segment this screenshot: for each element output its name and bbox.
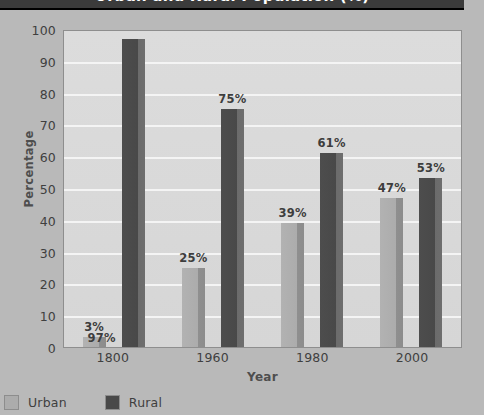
bar-value-label-rural-1800: 97% bbox=[87, 331, 115, 345]
x-axis-tick-1980: 1980 bbox=[263, 350, 363, 365]
bar-value-label-rural-1980: 61% bbox=[318, 136, 346, 150]
bar-group-1800: 3%97% bbox=[64, 31, 163, 347]
bar-rural-1980[interactable]: 61% bbox=[320, 153, 343, 347]
x-axis-tick-2000: 2000 bbox=[362, 350, 462, 365]
bar-value-label-urban-2000: 47% bbox=[378, 181, 406, 195]
bar-wrap-urban-1960: 25% bbox=[182, 268, 205, 348]
bar-wrap-rural-2000: 53% bbox=[419, 178, 442, 347]
y-axis-tick-0: 0 bbox=[8, 341, 56, 356]
bar-rural-2000[interactable]: 53% bbox=[419, 178, 442, 347]
chart-legend: UrbanRural bbox=[4, 395, 162, 410]
bar-urban-1960[interactable]: 25% bbox=[182, 268, 205, 348]
bar-urban-1980[interactable]: 39% bbox=[281, 223, 304, 347]
y-axis-tick-90: 90 bbox=[8, 54, 56, 69]
bar-chart: Percentage 1009080706050403020100 3%97%2… bbox=[0, 12, 484, 415]
bar-wrap-rural-1800: 97% bbox=[122, 39, 145, 347]
chart-title: Urban and Rural Population (%) bbox=[0, 0, 464, 8]
y-axis-tick-30: 30 bbox=[8, 245, 56, 260]
bar-value-label-rural-1960: 75% bbox=[218, 92, 246, 106]
legend-label-rural: Rural bbox=[129, 395, 162, 410]
chart-title-band: Urban and Rural Population (%) bbox=[0, 0, 464, 10]
y-axis-tick-50: 50 bbox=[8, 182, 56, 197]
y-axis-tick-20: 20 bbox=[8, 277, 56, 292]
legend-label-urban: Urban bbox=[28, 395, 67, 410]
x-axis-tick-1800: 1800 bbox=[63, 350, 163, 365]
y-axis-tick-80: 80 bbox=[8, 86, 56, 101]
bar-value-label-urban-1960: 25% bbox=[179, 251, 207, 265]
bar-wrap-rural-1980: 61% bbox=[320, 153, 343, 347]
bar-group-2000: 47%53% bbox=[362, 31, 461, 347]
y-axis-tick-100: 100 bbox=[8, 23, 56, 38]
x-axis-tick-1960: 1960 bbox=[163, 350, 263, 365]
bar-rural-1960[interactable]: 75% bbox=[221, 109, 244, 348]
bar-wrap-urban-1980: 39% bbox=[281, 223, 304, 347]
x-axis-title: Year bbox=[63, 370, 462, 384]
bar-group-1980: 39%61% bbox=[263, 31, 362, 347]
y-axis-tick-60: 60 bbox=[8, 150, 56, 165]
bar-groups: 3%97%25%75%39%61%47%53% bbox=[64, 31, 461, 347]
bar-rural-1800[interactable]: 97% bbox=[122, 39, 145, 347]
legend-item-urban[interactable]: Urban bbox=[4, 395, 67, 410]
y-axis-tick-70: 70 bbox=[8, 118, 56, 133]
legend-swatch-urban-icon bbox=[4, 395, 19, 410]
bar-wrap-urban-2000: 47% bbox=[380, 198, 403, 347]
legend-item-rural[interactable]: Rural bbox=[105, 395, 162, 410]
x-axis-tick-labels: 1800196019802000 bbox=[63, 350, 462, 365]
legend-swatch-rural-icon bbox=[105, 395, 120, 410]
plot-area: 3%97%25%75%39%61%47%53% bbox=[63, 30, 462, 348]
bar-wrap-rural-1960: 75% bbox=[221, 109, 244, 348]
y-axis-tick-40: 40 bbox=[8, 213, 56, 228]
bar-value-label-urban-1980: 39% bbox=[279, 206, 307, 220]
bar-group-1960: 25%75% bbox=[163, 31, 262, 347]
bar-value-label-rural-2000: 53% bbox=[417, 161, 445, 175]
y-axis-tick-10: 10 bbox=[8, 309, 56, 324]
y-axis-tick-labels: 1009080706050403020100 bbox=[8, 30, 56, 348]
bar-urban-2000[interactable]: 47% bbox=[380, 198, 403, 347]
